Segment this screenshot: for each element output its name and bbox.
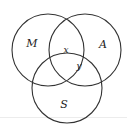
venn-diagram: M A S x y <box>0 0 127 126</box>
set-s-circle <box>32 53 102 123</box>
set-s-label: S <box>60 98 68 111</box>
set-a-circle <box>49 14 121 86</box>
region-x-label: x <box>63 45 68 55</box>
region-y-label: y <box>75 61 82 71</box>
set-m-circle <box>12 14 84 86</box>
set-m-label: M <box>25 37 38 50</box>
set-a-label: A <box>98 38 107 51</box>
